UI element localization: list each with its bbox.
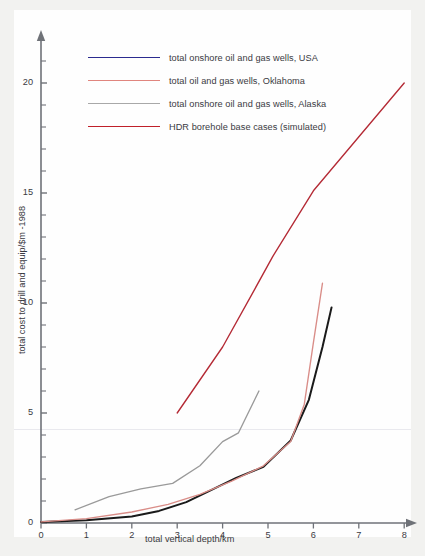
legend-label-oklahoma: total oil and gas wells, Oklahoma xyxy=(169,76,305,86)
legend-swatch-oklahoma xyxy=(88,80,160,81)
legend-item-hdr: HDR borehole base cases (simulated) xyxy=(88,115,388,138)
y-axis-title: total cost to drill and equip/$m -1988 xyxy=(17,185,27,375)
legend-label-usa: total onshore oil and gas wells, USA xyxy=(169,53,318,63)
x-tick-label: 4 xyxy=(216,530,230,540)
x-tick-label: 2 xyxy=(125,530,139,540)
series-line xyxy=(75,391,259,510)
legend-swatch-hdr xyxy=(88,126,160,127)
x-tick-label: 5 xyxy=(261,530,275,540)
series-line xyxy=(41,283,322,522)
legend-item-alaska: total onshore oil and gas wells, Alaska xyxy=(88,92,388,115)
legend-swatch-usa xyxy=(88,57,160,58)
y-tick-label: 5 xyxy=(11,407,33,417)
y-tick-label: 0 xyxy=(11,517,33,527)
x-tick-label: 7 xyxy=(352,530,366,540)
legend-label-hdr: HDR borehole base cases (simulated) xyxy=(169,122,326,132)
x-tick-label: 1 xyxy=(79,530,93,540)
x-tick-label: 3 xyxy=(170,530,184,540)
x-tick-label: 8 xyxy=(397,530,411,540)
legend-item-usa: total onshore oil and gas wells, USA xyxy=(88,46,388,69)
series-line xyxy=(41,307,332,522)
y-tick-label: 20 xyxy=(11,77,33,87)
chart-legend: total onshore oil and gas wells, USA tot… xyxy=(88,46,388,138)
figure-page: total onshore oil and gas wells, USA tot… xyxy=(0,0,425,556)
legend-swatch-alaska xyxy=(88,103,160,104)
y-tick-label: 10 xyxy=(11,297,33,307)
legend-label-alaska: total onshore oil and gas wells, Alaska xyxy=(169,99,326,109)
y-tick-label: 15 xyxy=(11,187,33,197)
x-tick-label: 0 xyxy=(34,530,48,540)
x-tick-label: 6 xyxy=(306,530,320,540)
legend-item-oklahoma: total oil and gas wells, Oklahoma xyxy=(88,69,388,92)
